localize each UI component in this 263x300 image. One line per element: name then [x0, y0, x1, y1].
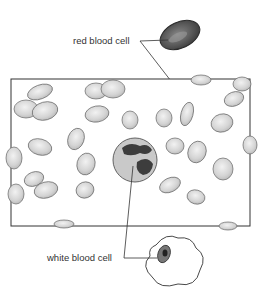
white-blood-cell-label: white blood cell [47, 252, 112, 263]
enlarged-white-blood-cell [146, 236, 204, 286]
white-blood-cell-in-sample [113, 138, 157, 182]
blood-cells-diagram [0, 0, 263, 300]
red-blood-cell-label: red blood cell [73, 35, 130, 46]
enlarged-red-blood-cell [155, 14, 204, 55]
